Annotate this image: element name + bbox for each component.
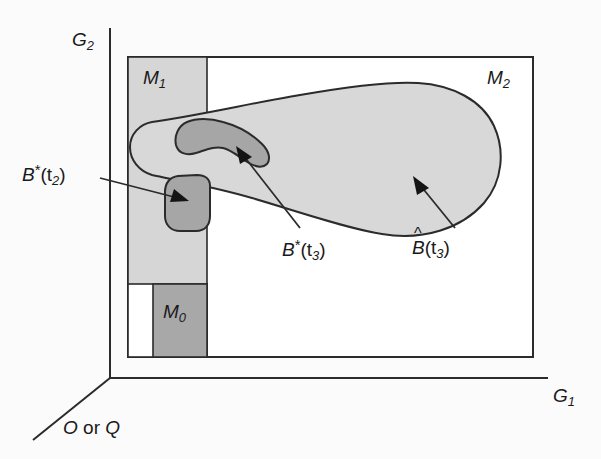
annotation-label-bstar-t2: B*(t2) bbox=[22, 163, 66, 188]
region-label-m0: M0 bbox=[163, 302, 186, 325]
diagram-svg bbox=[0, 0, 601, 459]
figure-canvas: G2 G1 O or Q M1 M2 M0 B*(t2) B*(t3) ^B(t… bbox=[0, 0, 601, 459]
annotation-label-bhat-t3: ^B(t3) bbox=[412, 238, 450, 261]
region-label-m2: M2 bbox=[487, 68, 510, 91]
axis-label-g1: G1 bbox=[553, 386, 575, 409]
annotation-label-bstar-t3: B*(t3) bbox=[282, 238, 326, 263]
axis-label-o-or-q: O or Q bbox=[63, 418, 120, 437]
axis-label-g2: G2 bbox=[72, 30, 94, 53]
region-label-m1: M1 bbox=[143, 68, 166, 91]
blob-bstar-t2 bbox=[165, 175, 210, 231]
